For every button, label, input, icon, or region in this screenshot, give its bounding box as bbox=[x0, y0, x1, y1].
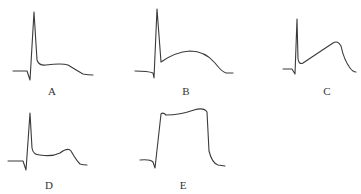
panel-label-c: C bbox=[317, 85, 337, 97]
waveform-c bbox=[283, 19, 356, 74]
waveform-d bbox=[8, 113, 87, 170]
waveform-a bbox=[13, 12, 93, 80]
waveform-b bbox=[135, 9, 233, 78]
panel-label-a: A bbox=[42, 85, 62, 97]
waveform-diagram bbox=[0, 0, 361, 194]
panel-label-e: E bbox=[173, 179, 193, 191]
waveform-e bbox=[140, 109, 225, 168]
panel-label-b: B bbox=[176, 85, 196, 97]
panel-label-d: D bbox=[39, 179, 59, 191]
